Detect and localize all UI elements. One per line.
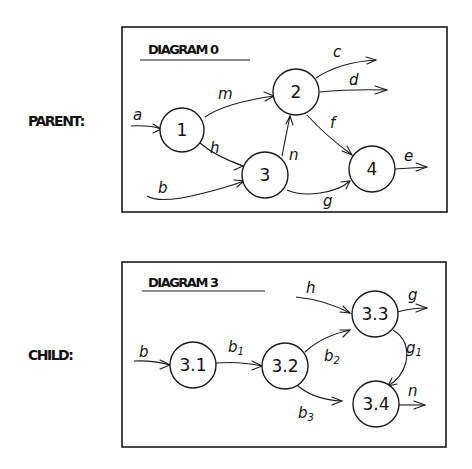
child-diagram-title: DIAGRAM 3 bbox=[148, 275, 219, 290]
parent-side-label: PARENT: bbox=[28, 113, 85, 129]
parent-node-4: 4 bbox=[349, 146, 395, 192]
edge-label-m: m bbox=[218, 85, 233, 103]
child-node-3-4: 3.4 bbox=[353, 381, 399, 427]
node-label: 4 bbox=[367, 159, 378, 179]
child-node-3-3: 3.3 bbox=[352, 291, 398, 337]
parent-node-3: 3 bbox=[242, 152, 288, 198]
parent-node-1: 1 bbox=[160, 108, 204, 152]
edge-label-b: b bbox=[139, 343, 149, 361]
node-label: 3.4 bbox=[362, 394, 389, 414]
edge-label-g: g bbox=[408, 286, 418, 304]
edge-label-d: d bbox=[349, 71, 359, 89]
node-label: 3 bbox=[260, 165, 271, 185]
edge-label-h: h bbox=[210, 139, 220, 157]
parent-node-2: 2 bbox=[273, 69, 319, 115]
edge-label-b2: b2 bbox=[324, 347, 340, 366]
edge-label-b: b bbox=[158, 179, 168, 197]
edge-label-e: e bbox=[404, 147, 413, 165]
edge-label-b3: b3 bbox=[298, 404, 314, 423]
child-node-3-2: 3.2 bbox=[262, 343, 308, 389]
child-side-label: CHILD: bbox=[28, 347, 73, 363]
edge-h bbox=[296, 297, 350, 313]
edge-label-h: h bbox=[306, 279, 316, 297]
edge-g bbox=[287, 181, 350, 194]
edge-b bbox=[134, 361, 170, 365]
edge-label-a: a bbox=[133, 106, 142, 124]
edge-label-f: f bbox=[330, 114, 338, 132]
node-label: 3.3 bbox=[361, 304, 388, 324]
diagram-canvas: PARENT: DIAGRAM 0 a b m h n c d bbox=[0, 0, 472, 469]
edge-label-g1: g1 bbox=[406, 339, 422, 358]
edge-label-c: c bbox=[333, 43, 342, 61]
child-node-3-1: 3.1 bbox=[170, 342, 216, 388]
node-label: 3.2 bbox=[271, 356, 298, 376]
edge-c bbox=[316, 60, 376, 78]
node-label: 3.1 bbox=[179, 355, 206, 375]
edge-h bbox=[200, 143, 243, 166]
edge-label-n: n bbox=[408, 382, 418, 400]
edge-d bbox=[320, 90, 387, 92]
edge-label-g: g bbox=[323, 192, 333, 210]
parent-diagram-title: DIAGRAM 0 bbox=[148, 42, 219, 57]
node-label: 1 bbox=[177, 120, 188, 140]
node-label: 2 bbox=[291, 82, 302, 102]
edge-g1 bbox=[388, 330, 407, 386]
arrowhead-icon bbox=[160, 360, 170, 369]
edge-m bbox=[205, 96, 274, 117]
edge-label-n: n bbox=[289, 146, 299, 164]
edge-label-b1: b1 bbox=[228, 338, 244, 357]
